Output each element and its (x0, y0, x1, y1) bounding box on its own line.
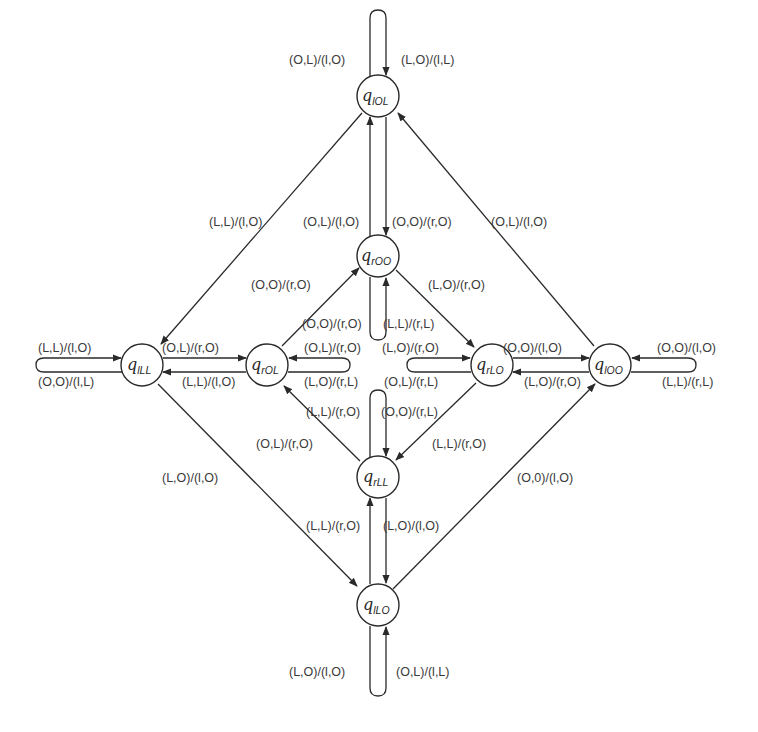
state-subscript: rOL (261, 364, 279, 376)
edge-label: (O,L)/(r,O) (256, 437, 313, 451)
edge-label: (O,0)/(l,O) (517, 471, 573, 485)
edge-label: (O,O)/(l,O) (503, 341, 562, 355)
state-node-rOO[interactable]: qrOO (357, 235, 399, 277)
edge-label: (L,O)/(l,L) (401, 53, 454, 67)
edge-label: (L,O)/(l,O) (162, 471, 218, 485)
state-node-lLL[interactable]: qlLL (121, 344, 163, 386)
state-node-lOL[interactable]: qlOL (357, 75, 399, 117)
edge-label: (L,L)/(r,L) (383, 317, 434, 331)
state-node-lOO[interactable]: qlOO (589, 344, 631, 386)
state-subscript: rLL (373, 476, 388, 488)
state-subscript: rLO (486, 364, 504, 376)
edge-label: (O,L)/(r,O) (304, 341, 361, 355)
state-subscript: lOL (372, 95, 389, 107)
edge-label: (L,L)/(r,L) (662, 375, 713, 389)
edge-lOO-loop (631, 358, 696, 372)
state-symbol: q (594, 355, 604, 374)
state-node-lLO[interactable]: qlLO (357, 584, 399, 626)
edge-label: (O,L)/(l,O) (303, 215, 359, 229)
edge-label: (L,O)/(r,O) (382, 341, 439, 355)
state-symbol: q (363, 467, 373, 486)
edge-label: (L,O)/(r,O) (428, 278, 485, 292)
state-node-rOL[interactable]: qrOL (246, 344, 288, 386)
edge-label: (L,L)/(r,O) (306, 519, 360, 533)
edge-label: (O,O)/(r,L) (381, 405, 438, 419)
edge-label: (O,O)/(r,O) (251, 278, 311, 292)
state-node-rLL[interactable]: qrLL (357, 456, 399, 498)
edge-label: (O,O)/(l,L) (38, 375, 94, 389)
state-subscript: rOO (371, 255, 391, 267)
state-diagram: qlOL qrOO qlLL qrOL qrLO qlOO qrLL qlLO (0, 0, 758, 732)
edge-label: (O,O)/(l,O) (657, 341, 716, 355)
edge-label: (O,L)/(r,O) (162, 341, 219, 355)
edge-label: (O,L)/(l,O) (491, 215, 547, 229)
edge-label: (O,O)/(r,O) (302, 317, 362, 331)
state-symbol: q (363, 595, 373, 614)
edge-lOO-to-lOL (398, 113, 594, 346)
state-symbol: q (251, 355, 261, 374)
state-symbol: q (476, 355, 486, 374)
edge-rOL-loop (288, 358, 350, 372)
edge-label: (O,O)/(r,O) (392, 215, 452, 229)
edge-label: (O,L)/(r,L) (384, 375, 438, 389)
edge-label: (O,L)/(l,O) (289, 53, 345, 67)
edge-lOL-loop (370, 10, 386, 77)
edge-label: (L,O)/(r,L) (304, 375, 358, 389)
state-symbol: q (362, 86, 372, 105)
edge-lLO-loop (370, 626, 386, 696)
edge-lLL-loop (36, 358, 122, 372)
edge-label: (L,L)/(l,O) (38, 341, 91, 355)
edge-label: (L,O)/(l,O) (289, 665, 345, 679)
edge-label: (L,L)/(l,O) (209, 215, 262, 229)
edge-label: (L,L)/(r,O) (306, 405, 360, 419)
state-symbol: q (127, 355, 137, 374)
edge-label: (L,O)/(r,O) (524, 375, 581, 389)
state-subscript: lOO (604, 364, 623, 376)
state-symbol: q (361, 246, 371, 265)
edge-label: (L,O)/(l,O) (383, 519, 439, 533)
state-subscript: lLO (373, 604, 389, 616)
edge-rLO-loop (407, 358, 471, 372)
edge-label: (O,L)/(l,L) (396, 665, 449, 679)
state-subscript: lLL (137, 364, 151, 376)
edge-rLL-loop (370, 390, 386, 457)
edge-label: (L,L)/(l,O) (182, 375, 235, 389)
edge-label: (L,L)/(r,O) (432, 437, 486, 451)
